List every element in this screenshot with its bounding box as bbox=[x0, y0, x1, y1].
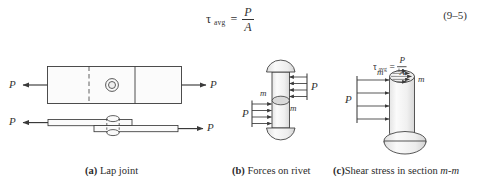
caption-tag-b: (b) bbox=[232, 165, 245, 176]
caption-panel-a: (a) Lap joint bbox=[85, 165, 138, 176]
rivet-head-dome-c bbox=[384, 141, 426, 154]
equation-number: (9–5) bbox=[443, 9, 467, 21]
equals-sign-c: = bbox=[390, 61, 395, 71]
fraction-p-over-a: P A bbox=[242, 6, 253, 33]
force-label-right-b: P bbox=[311, 80, 318, 92]
section-label-upper-b: m bbox=[260, 88, 267, 98]
caption-panel-c: (c)Shear stress in section m-m bbox=[333, 165, 459, 176]
section-label-left-c: m bbox=[377, 67, 384, 77]
fraction-numerator-c: P bbox=[398, 56, 407, 65]
section-label-lower-b: m bbox=[290, 103, 297, 113]
force-label-left-b: P bbox=[242, 107, 249, 119]
panel-c-shear-stress bbox=[357, 69, 426, 155]
rivet-head-lower-b bbox=[267, 128, 296, 140]
tau-symbol: τ bbox=[206, 12, 211, 27]
rivet-side-view-lower-head bbox=[107, 130, 119, 136]
equals-sign: = bbox=[230, 12, 237, 27]
panel-a-lap-joint bbox=[23, 67, 206, 136]
force-label-left-side-view: P bbox=[9, 115, 16, 127]
rivet-head-upper-b bbox=[267, 60, 296, 72]
force-arrow-group-c bbox=[357, 80, 389, 119]
main-equation: τavg = P A bbox=[206, 6, 254, 33]
panel-b-forces-on-rivet bbox=[252, 60, 307, 140]
figure-container: τavg = P A (9–5) P P P P P P m m τavg = … bbox=[0, 0, 481, 190]
fraction-denominator-c: A bbox=[398, 68, 407, 77]
fraction-denominator: A bbox=[242, 21, 253, 33]
section-label-right-c: m bbox=[418, 74, 425, 84]
force-label-c: P bbox=[345, 93, 352, 105]
force-label-left-top-view: P bbox=[9, 78, 16, 90]
rivet-head-top-view-inner bbox=[109, 82, 116, 89]
caption-text-c: Shear stress in section bbox=[345, 165, 441, 176]
caption-panel-b: (b) Forces on rivet bbox=[232, 165, 310, 176]
caption-text-b: Forces on rivet bbox=[247, 165, 310, 176]
shear-plane-section-b bbox=[272, 96, 289, 105]
fraction-numerator: P bbox=[242, 6, 253, 18]
tau-subscript: avg bbox=[214, 18, 225, 27]
rivet-shank-c bbox=[390, 77, 415, 140]
caption-text-a: Lap joint bbox=[100, 165, 138, 176]
force-arrow-group-left-b bbox=[252, 104, 272, 124]
caption-section-label-c: m-m bbox=[440, 165, 459, 176]
force-arrow-group-right-b bbox=[290, 77, 308, 97]
force-label-right-top-view: P bbox=[210, 78, 217, 90]
caption-tag-c: (c) bbox=[333, 165, 345, 176]
force-label-right-side-view: P bbox=[207, 121, 214, 133]
caption-tag-a: (a) bbox=[85, 165, 97, 176]
rivet-side-view-upper-head bbox=[107, 116, 119, 122]
fraction-p-over-a-c: P A bbox=[397, 56, 406, 77]
